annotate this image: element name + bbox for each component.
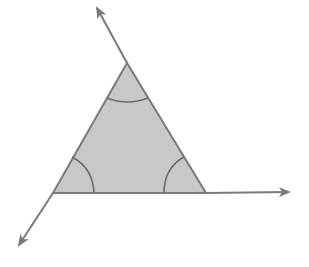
ray-down-left: [19, 193, 53, 245]
ray-up-left: [97, 8, 127, 63]
ray-right: [206, 192, 289, 193]
triangle-diagram: [0, 0, 309, 267]
triangle-shape: [53, 63, 206, 193]
